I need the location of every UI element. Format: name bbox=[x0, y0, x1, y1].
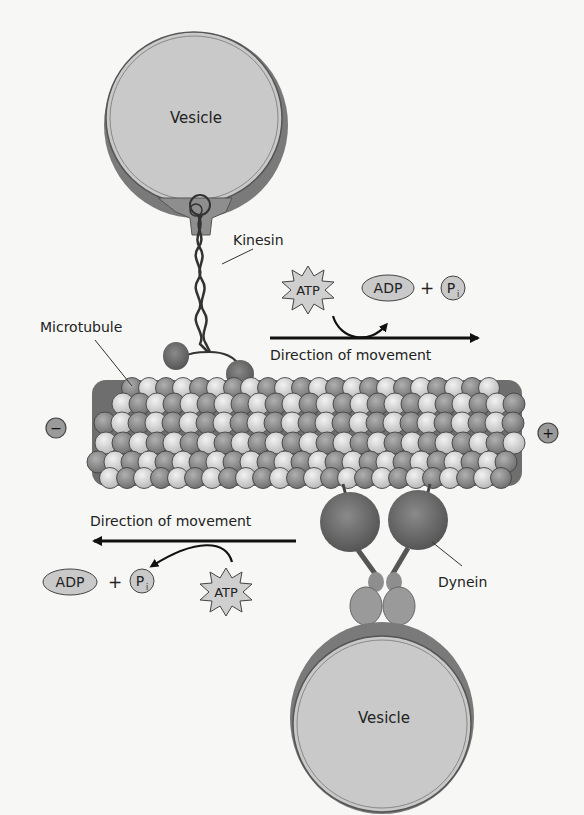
kinesin-leader-line bbox=[222, 249, 253, 264]
vesicle-top-label: Vesicle bbox=[170, 109, 222, 127]
dynein-atp-label: ATP bbox=[214, 585, 238, 600]
microtubule-leader-line bbox=[95, 340, 132, 386]
dynein-reaction: Direction of movement ATP ADP + P i bbox=[43, 513, 296, 616]
kinesin-reaction: ATP ADP + P i Direction of movement bbox=[270, 266, 478, 363]
vesicle-bottom: Vesicle bbox=[290, 622, 474, 814]
kinesin-adp-label: ADP bbox=[374, 280, 403, 296]
dynein-pi-label: P bbox=[136, 573, 144, 589]
svg-text:i: i bbox=[457, 290, 459, 299]
vesicle-bottom-label: Vesicle bbox=[358, 709, 410, 727]
microtubule bbox=[87, 378, 525, 489]
kinesin: Kinesin bbox=[163, 195, 284, 388]
kinesin-pi-label: P bbox=[447, 280, 455, 296]
kinesin-direction-label: Direction of movement bbox=[270, 347, 432, 363]
svg-text:+: + bbox=[420, 278, 434, 298]
dynein: Dynein bbox=[320, 484, 487, 625]
dynein-label: Dynein bbox=[438, 574, 487, 590]
plus-end-marker: + bbox=[538, 423, 558, 443]
minus-end-marker: − bbox=[46, 418, 66, 438]
microtubule-label: Microtubule bbox=[40, 319, 122, 335]
svg-text:i: i bbox=[146, 583, 148, 592]
svg-text:+: + bbox=[542, 425, 554, 441]
kinesin-label: Kinesin bbox=[233, 232, 284, 248]
dynein-direction-label: Direction of movement bbox=[90, 513, 252, 529]
motor-protein-diagram: Vesicle Kinesin Microtubule − + ATP ADP bbox=[0, 0, 584, 815]
dynein-adp-label: ADP bbox=[56, 574, 85, 590]
dynein-leader-line bbox=[432, 542, 462, 566]
kinesin-atp-label: ATP bbox=[296, 283, 320, 298]
svg-text:−: − bbox=[50, 420, 62, 436]
svg-text:+: + bbox=[108, 572, 122, 592]
